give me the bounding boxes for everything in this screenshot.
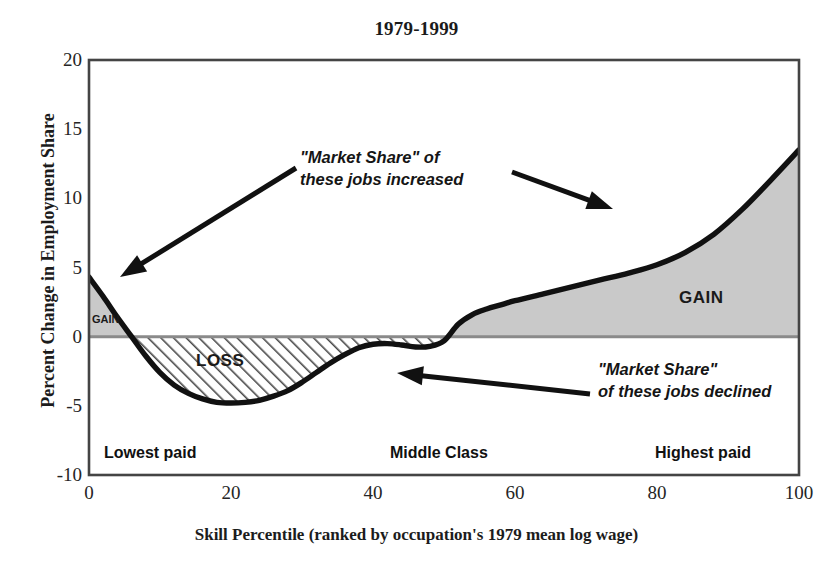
region-label-gain-left: GAIN: [92, 313, 120, 325]
arrow-increased-right-shaft: [512, 172, 594, 202]
band-label-lowest-paid: Lowest paid: [104, 444, 196, 462]
arrow-increased-left-head: [120, 255, 147, 277]
chart-figure: 1979-1999 Percent Change in Employment S…: [0, 0, 833, 569]
band-label-middle-class: Middle Class: [390, 444, 488, 462]
arrow-declined-shaft: [417, 375, 590, 394]
region-label-loss: LOSS: [196, 351, 244, 371]
annotation-declined-line1: "Market Share": [598, 359, 771, 381]
arrow-declined-head: [397, 366, 424, 385]
plot-area: [0, 0, 833, 569]
annotation-increased-line1: "Market Share" of: [300, 147, 463, 169]
arrow-increased-right-head: [585, 191, 613, 209]
annotation-declined-line2: of these jobs declined: [598, 381, 771, 403]
band-label-highest-paid: Highest paid: [655, 444, 751, 462]
region-fill-gain-right: [440, 150, 799, 343]
annotation-increased-line2: these jobs increased: [300, 169, 463, 191]
arrow-increased-left-shaft: [137, 168, 296, 266]
annotation-market-share-increased: "Market Share" of these jobs increased: [300, 147, 463, 191]
region-label-gain-right: GAIN: [679, 288, 724, 308]
annotation-market-share-declined: "Market Share" of these jobs declined: [598, 359, 771, 403]
